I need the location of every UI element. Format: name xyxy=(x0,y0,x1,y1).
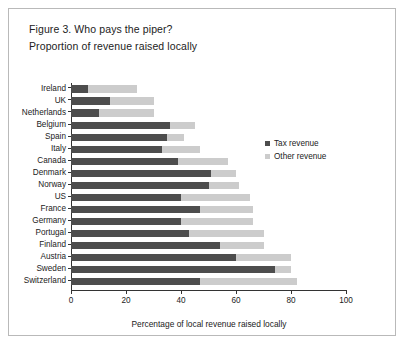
x-axis-tick xyxy=(346,290,347,294)
bar-segment xyxy=(71,242,220,249)
bar-segment xyxy=(110,97,154,104)
bar-row: Denmark xyxy=(71,167,346,179)
x-axis-tick-label: 80 xyxy=(286,296,295,305)
bar-row: Germany xyxy=(71,216,346,228)
x-axis-tick xyxy=(71,290,72,294)
y-axis-tick-label: Netherlands xyxy=(22,107,66,119)
stacked-bar xyxy=(71,242,346,249)
y-axis-tick-label: Sweden xyxy=(36,263,66,275)
y-axis-tick-label: Austria xyxy=(41,251,66,263)
stacked-bar xyxy=(71,97,346,104)
x-axis-tick-label: 20 xyxy=(121,296,130,305)
y-axis-tick-label: UK xyxy=(55,95,66,107)
y-axis-tick-label: Spain xyxy=(45,131,66,143)
bar-row: Austria xyxy=(71,252,346,264)
bar-segment xyxy=(200,278,296,285)
legend-item: Other revenue xyxy=(265,152,326,161)
bar-row: Switzerland xyxy=(71,276,346,288)
x-axis-tick-label: 60 xyxy=(231,296,240,305)
x-axis-tick xyxy=(236,290,237,294)
stacked-bar xyxy=(71,85,346,92)
bar-segment xyxy=(181,218,253,225)
bar-segment xyxy=(162,146,201,153)
stacked-bar xyxy=(71,182,346,189)
bar-row: Ireland xyxy=(71,83,346,95)
bar-segment xyxy=(71,158,178,165)
bar-segment xyxy=(181,194,250,201)
y-axis-tick-label: US xyxy=(55,191,66,203)
x-axis-tick-label: 100 xyxy=(339,296,353,305)
bar-segment xyxy=(71,254,236,261)
x-axis-tick xyxy=(291,290,292,294)
stacked-bar xyxy=(71,266,346,273)
legend-swatch-icon xyxy=(265,141,270,146)
y-axis-tick-label: Germany xyxy=(32,215,66,227)
bar-segment xyxy=(71,194,181,201)
bar-segment xyxy=(71,122,170,129)
chart-plot-area: IrelandUKNetherlandsBelgiumSpainItalyCan… xyxy=(71,83,348,292)
bar-segment xyxy=(71,218,181,225)
bar-row: Netherlands xyxy=(71,107,346,119)
y-axis-tick-label: Norway xyxy=(38,179,66,191)
figure-panel: Figure 3. Who pays the piper? Proportion… xyxy=(8,8,396,336)
y-axis-tick-label: Switzerland xyxy=(24,275,66,287)
bar-segment xyxy=(167,134,184,141)
legend-swatch-icon xyxy=(265,154,270,159)
bar-segment xyxy=(71,278,200,285)
stacked-bar xyxy=(71,254,346,261)
y-axis-tick-label: Denmark xyxy=(33,167,66,179)
x-axis-title: Percentage of local revenue raised local… xyxy=(131,319,286,329)
stacked-bar xyxy=(71,230,346,237)
bar-row: Sweden xyxy=(71,264,346,276)
stacked-bar xyxy=(71,278,346,285)
stacked-bar xyxy=(71,109,346,116)
bar-segment xyxy=(71,230,189,237)
bar-row: Finland xyxy=(71,240,346,252)
chart-legend: Tax revenueOther revenue xyxy=(265,139,326,165)
bar-segment xyxy=(211,170,236,177)
y-axis-tick-label: Ireland xyxy=(41,83,66,95)
stacked-bar xyxy=(71,194,346,201)
legend-item: Tax revenue xyxy=(265,139,326,148)
bar-row: Portugal xyxy=(71,228,346,240)
legend-label: Tax revenue xyxy=(274,139,319,148)
y-axis-tick-label: Finland xyxy=(39,239,66,251)
bar-segment xyxy=(71,97,110,104)
legend-label: Other revenue xyxy=(274,152,326,161)
bar-row: Norway xyxy=(71,179,346,191)
bar-segment xyxy=(275,266,292,273)
bar-rows: IrelandUKNetherlandsBelgiumSpainItalyCan… xyxy=(71,83,346,288)
bar-segment xyxy=(71,134,167,141)
stacked-bar xyxy=(71,218,346,225)
bar-segment xyxy=(99,109,154,116)
bar-segment xyxy=(71,182,209,189)
y-axis-tick-label: Belgium xyxy=(36,119,66,131)
bar-segment xyxy=(209,182,239,189)
bar-segment xyxy=(71,206,200,213)
bar-segment xyxy=(71,170,211,177)
bar-segment xyxy=(189,230,263,237)
bar-segment xyxy=(71,266,275,273)
stacked-bar xyxy=(71,206,346,213)
bar-segment xyxy=(200,206,252,213)
x-axis-tick-label: 40 xyxy=(176,296,185,305)
bar-row: UK xyxy=(71,95,346,107)
stacked-bar xyxy=(71,170,346,177)
y-axis-tick-label: Italy xyxy=(51,143,66,155)
bar-row: Belgium xyxy=(71,119,346,131)
x-axis-tick xyxy=(181,290,182,294)
y-axis-tick-label: Portugal xyxy=(36,227,67,239)
bar-segment xyxy=(178,158,228,165)
bar-row: France xyxy=(71,203,346,215)
x-axis-tick-label: 0 xyxy=(69,296,74,305)
bar-segment xyxy=(170,122,195,129)
x-axis-tick xyxy=(126,290,127,294)
figure-title: Figure 3. Who pays the piper? xyxy=(29,23,173,35)
bar-segment xyxy=(220,242,264,249)
stacked-bar xyxy=(71,122,346,129)
bar-segment xyxy=(71,146,162,153)
figure-subtitle: Proportion of revenue raised locally xyxy=(29,40,197,52)
y-axis-tick-label: France xyxy=(41,203,66,215)
y-axis-tick-label: Canada xyxy=(37,155,66,167)
bar-segment xyxy=(88,85,138,92)
